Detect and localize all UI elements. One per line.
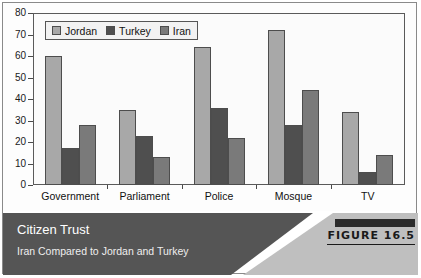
legend-item-jordan: Jordan	[52, 25, 97, 37]
legend-label-iran: Iran	[173, 25, 191, 37]
y-axis-tick-label: 0	[21, 178, 26, 191]
bar-turkey-mosque	[285, 125, 302, 185]
x-axis-tick	[256, 185, 257, 189]
x-axis-tick	[182, 185, 183, 189]
bar-iran-police	[228, 138, 245, 185]
legend-swatch-jordan-icon	[52, 26, 61, 35]
y-axis-tick-label: 70	[15, 28, 26, 41]
figure-number-label: FIGURE 16.5	[327, 229, 415, 245]
caption-text-group: Citizen Trust Iran Compared to Jordan an…	[17, 222, 189, 258]
bar-iran-parliament	[153, 157, 170, 185]
y-axis-tick-label: 10	[15, 157, 26, 170]
x-axis-label-police: Police	[182, 190, 256, 202]
x-axis-tick	[331, 185, 332, 189]
bar-turkey-government	[62, 148, 79, 185]
y-axis-tick-label: 30	[15, 114, 26, 127]
y-axis-tick-mark	[28, 142, 33, 143]
chart-legend: JordanTurkeyIran	[45, 21, 198, 40]
bar-turkey-parliament	[136, 136, 153, 185]
x-axis-label-mosque: Mosque	[256, 190, 330, 202]
figure-container: 01020304050607080 GovernmentParliamentPo…	[0, 0, 421, 278]
x-axis-label-government: Government	[33, 190, 107, 202]
chart-region: 01020304050607080 GovernmentParliamentPo…	[3, 3, 416, 211]
bar-jordan-mosque	[268, 30, 285, 185]
y-axis-tick-mark	[28, 121, 33, 122]
bar-iran-mosque	[302, 90, 319, 185]
legend-swatch-iran-icon	[160, 26, 169, 35]
y-axis-tick-mark	[28, 56, 33, 57]
legend-swatch-turkey-icon	[106, 26, 115, 35]
caption-subtitle: Iran Compared to Jordan and Turkey	[17, 244, 189, 258]
bar-turkey-tv	[359, 172, 376, 185]
legend-label-turkey: Turkey	[119, 25, 151, 37]
bar-jordan-police	[194, 47, 211, 185]
bar-iran-tv	[376, 155, 393, 185]
legend-item-iran: Iran	[160, 25, 191, 37]
y-axis-tick-mark	[28, 185, 33, 186]
bar-jordan-parliament	[119, 110, 136, 185]
y-axis-tick-mark	[28, 164, 33, 165]
y-axis-tick-mark	[28, 13, 33, 14]
y-axis-tick-label: 80	[15, 6, 26, 19]
y-axis-tick-label: 20	[15, 135, 26, 148]
caption-bar: Citizen Trust Iran Compared to Jordan an…	[3, 213, 418, 275]
y-axis-tick-label: 60	[15, 49, 26, 62]
bar-jordan-tv	[342, 112, 359, 185]
bar-turkey-police	[211, 108, 228, 185]
x-axis-label-parliament: Parliament	[107, 190, 181, 202]
x-axis-label-tv: TV	[331, 190, 405, 202]
bar-iran-government	[79, 125, 96, 185]
y-axis-tick-label: 40	[15, 92, 26, 105]
x-axis-tick	[107, 185, 108, 189]
y-axis-tick-mark	[28, 99, 33, 100]
y-axis-tick-mark	[28, 78, 33, 79]
bar-jordan-government	[45, 56, 62, 185]
y-axis-tick-label: 50	[15, 71, 26, 84]
figure-badge-bar	[335, 219, 415, 227]
figure-badge: FIGURE 16.5	[327, 219, 415, 245]
legend-label-jordan: Jordan	[65, 25, 97, 37]
y-axis-tick-mark	[28, 35, 33, 36]
caption-title: Citizen Trust	[17, 222, 189, 238]
legend-item-turkey: Turkey	[106, 25, 151, 37]
